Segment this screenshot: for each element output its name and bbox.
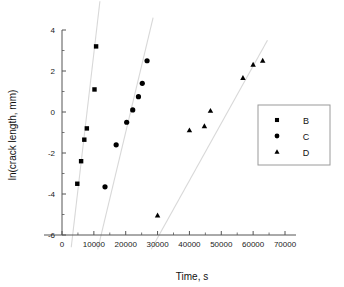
- data-point-b: [94, 44, 98, 48]
- y-tick-label: 4: [51, 26, 56, 35]
- data-point-d: [187, 127, 192, 132]
- series-d: [155, 58, 266, 218]
- x-tick-label: 60000: [242, 240, 265, 249]
- data-point-c: [114, 142, 119, 147]
- data-point-b: [79, 159, 83, 163]
- data-point-d: [240, 75, 245, 80]
- data-point-c: [136, 94, 141, 99]
- data-point-d: [208, 108, 213, 113]
- legend-box: [258, 105, 330, 165]
- data-point-c: [144, 58, 149, 63]
- data-point-c: [130, 107, 135, 112]
- x-tick-label: 50000: [210, 240, 233, 249]
- data-point-c: [124, 120, 129, 125]
- x-tick-label: 10000: [83, 240, 106, 249]
- legend-label-d: D: [303, 148, 310, 158]
- x-tick-label: 30000: [146, 240, 169, 249]
- y-tick-label: 0: [51, 108, 56, 117]
- x-tick-label: 40000: [178, 240, 201, 249]
- data-point-b: [75, 182, 79, 186]
- x-axis-title: Time, s: [176, 271, 208, 282]
- legend-marker-c: [275, 134, 280, 139]
- x-tick-label: 20000: [115, 240, 138, 249]
- series-c: [102, 58, 149, 189]
- data-point-b: [92, 87, 96, 91]
- trend-line-d: [151, 40, 267, 249]
- y-tick-label: -2: [48, 149, 56, 158]
- trend-line-layer: [71, 1, 267, 249]
- y-tick-label: -4: [48, 190, 56, 199]
- trend-line-b: [71, 1, 100, 247]
- legend-label-c: C: [303, 132, 310, 142]
- x-tick-label: 0: [60, 240, 65, 249]
- chart-canvas: 010000200003000040000500006000070000-6-4…: [0, 0, 344, 287]
- y-axis-title: ln(crack length, mm): [7, 90, 18, 181]
- data-marker-layer: [75, 44, 265, 217]
- y-tick-label: 2: [51, 67, 56, 76]
- data-point-d: [260, 58, 265, 63]
- legend-marker-b: [275, 118, 279, 122]
- trend-line-c: [98, 18, 153, 250]
- y-tick-label: -6: [48, 231, 56, 240]
- data-point-c: [102, 184, 107, 189]
- legend-label-b: B: [303, 116, 309, 126]
- x-tick-label: 70000: [274, 240, 297, 249]
- data-point-d: [155, 212, 160, 217]
- data-point-b: [82, 137, 86, 141]
- data-point-d: [202, 123, 207, 128]
- data-point-b: [85, 126, 89, 130]
- data-point-c: [140, 81, 145, 86]
- chart-legend: BCD: [258, 105, 330, 165]
- scatter-chart: 010000200003000040000500006000070000-6-4…: [0, 0, 344, 287]
